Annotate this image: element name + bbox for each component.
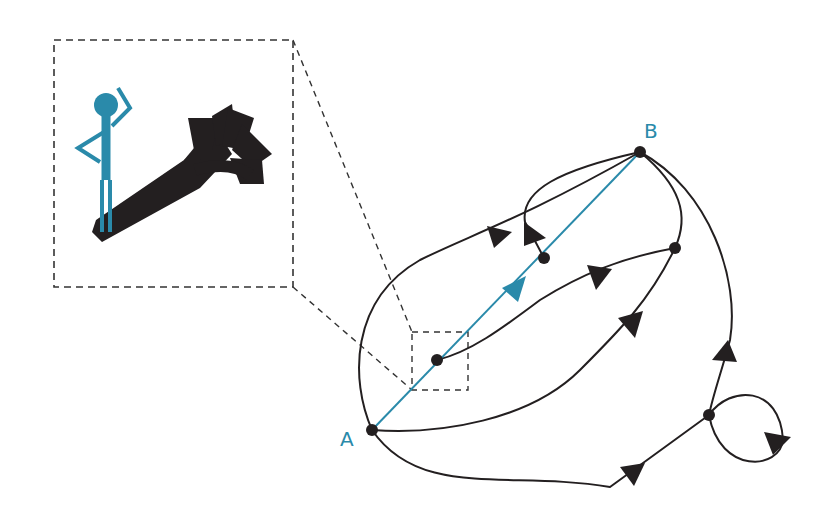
path-n1-n3 (437, 248, 675, 360)
label-B: B (644, 119, 658, 143)
arrowheads (487, 222, 791, 486)
node-A (366, 424, 378, 436)
node-n2 (538, 252, 550, 264)
callout-line-bottom (293, 287, 412, 390)
arrowhead-icon (618, 311, 643, 338)
path-A-n3 (372, 248, 675, 431)
diverging-arrows-icon (92, 104, 272, 242)
label-A: A (340, 427, 354, 451)
path-network (359, 152, 783, 487)
path-outer-top (359, 152, 640, 430)
callout-line-top (293, 40, 412, 332)
arrowhead-icon (587, 265, 612, 290)
diagram-canvas: A B (0, 0, 835, 521)
node-n3 (669, 242, 681, 254)
arrowhead-icon (712, 340, 737, 362)
node-n4 (703, 409, 715, 421)
node-B (634, 146, 646, 158)
arrowhead-icon (620, 463, 645, 486)
path-A-bottom (372, 415, 709, 487)
inset-panel (54, 40, 412, 390)
node-n1 (431, 354, 443, 366)
direct-path-arrowhead-icon (502, 276, 526, 302)
arrowhead-icon (487, 226, 512, 248)
path-B-right (640, 152, 732, 415)
